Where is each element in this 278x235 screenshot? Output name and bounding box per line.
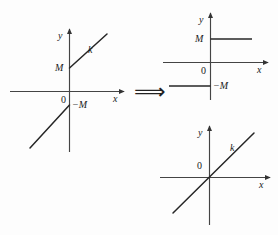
implication-arrow-icon: ⟹ (134, 81, 166, 103)
left-branch-negative (30, 105, 70, 148)
top-right-origin-label: 0 (201, 66, 206, 76)
left-origin-label: 0 (61, 95, 66, 105)
left-x-axis-label: x (113, 94, 117, 104)
bottom-right-x-axis-label: x (259, 180, 263, 190)
top-right-y-axis-label: y (199, 15, 203, 25)
top-right-upper-level-label: M (195, 34, 203, 44)
math-figure: y x 0 k M −M ⟹ y x 0 M −M y x 0 k (0, 0, 278, 235)
bottom-right-y-axis-label: y (198, 128, 202, 138)
left-y-axis-label: y (58, 31, 62, 41)
bottom-right-origin-label: 0 (197, 161, 202, 171)
left-panel-graph (0, 0, 278, 235)
left-axes (10, 29, 124, 152)
line-through-origin (173, 133, 254, 213)
top-right-x-axis-label: x (257, 65, 261, 75)
left-slope-label: k (88, 45, 92, 55)
left-upper-intercept-label: M (55, 63, 63, 73)
left-lower-intercept-label: −M (72, 100, 87, 110)
bottom-right-line-curve (173, 133, 254, 213)
top-right-lower-level-label: −M (213, 81, 228, 91)
bottom-right-slope-label: k (230, 143, 234, 153)
